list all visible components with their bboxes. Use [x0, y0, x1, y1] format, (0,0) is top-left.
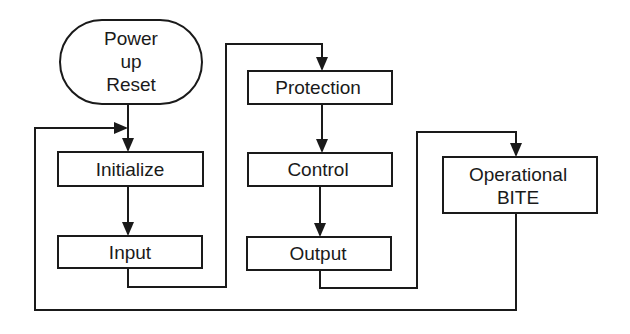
node-initialize: Initialize	[58, 152, 203, 186]
node-control: Control	[248, 153, 392, 186]
node-label: Output	[289, 243, 347, 264]
node-protection: Protection	[248, 71, 392, 104]
arrowhead-icon	[122, 138, 134, 152]
arrowhead-icon	[316, 57, 328, 71]
node-label: Initialize	[96, 159, 165, 180]
flowchart-canvas: Power up Reset Initialize Input Protecti…	[0, 0, 630, 334]
node-label: BITE	[497, 187, 539, 208]
arrowhead-icon	[122, 222, 134, 236]
node-label: Control	[287, 159, 348, 180]
edge-control-to-output	[314, 186, 326, 237]
node-output: Output	[247, 237, 391, 270]
node-power-up-reset: Power up Reset	[60, 20, 202, 104]
node-label: Input	[109, 242, 152, 263]
node-label: Power	[104, 28, 159, 49]
arrowhead-icon	[114, 122, 128, 134]
node-label: up	[120, 51, 141, 72]
node-label: Protection	[275, 77, 361, 98]
node-label: Reset	[106, 74, 156, 95]
arrowhead-icon	[316, 139, 328, 153]
node-label: Operational	[469, 164, 567, 185]
node-input: Input	[58, 236, 202, 268]
edge-initialize-to-input	[122, 186, 134, 236]
arrowhead-icon	[510, 143, 522, 157]
arrowhead-icon	[314, 223, 326, 237]
node-operational-bite: Operational BITE	[443, 157, 597, 213]
edge-protection-to-control	[316, 104, 328, 153]
edge-bite-loopback-to-initialize	[35, 122, 516, 310]
